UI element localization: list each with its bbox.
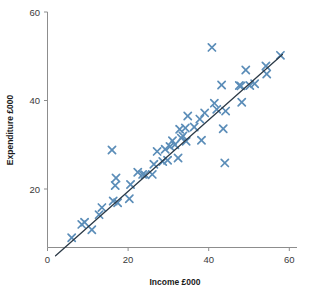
data-point-marker <box>213 106 220 113</box>
data-point-marker <box>68 234 75 241</box>
data-point-markers <box>68 44 284 241</box>
data-point-marker <box>88 226 95 233</box>
data-point-marker <box>198 137 205 144</box>
scatter-chart: 60 40 20 0 20 40 60 Income £000 Expendit… <box>0 0 313 294</box>
x-tick-labels: 0 20 40 60 <box>45 254 295 265</box>
regression-line-path <box>56 54 283 255</box>
y-tick-label-60: 60 <box>29 7 40 18</box>
data-point-marker <box>154 148 161 155</box>
y-tick-label-40: 40 <box>29 95 40 106</box>
data-point-marker <box>211 100 218 107</box>
data-point-marker <box>201 109 208 116</box>
data-point-marker <box>208 44 215 51</box>
y-tick-label-20: 20 <box>29 184 40 195</box>
chart-canvas: 60 40 20 0 20 40 60 Income £000 Expendit… <box>0 0 313 294</box>
data-point-marker <box>238 99 245 106</box>
plot-axes <box>48 12 298 248</box>
data-point-marker <box>108 146 115 153</box>
data-point-marker <box>222 108 229 115</box>
data-point-marker <box>220 125 227 132</box>
data-point-marker <box>221 159 228 166</box>
y-axis-ticks <box>44 12 48 189</box>
y-tick-labels: 60 40 20 <box>29 7 40 195</box>
data-point-marker <box>98 204 105 211</box>
y-axis-title: Expenditure £000 <box>5 95 15 166</box>
x-tick-label-60: 60 <box>284 254 295 265</box>
data-point-marker <box>218 81 225 88</box>
x-tick-label-20: 20 <box>123 254 134 265</box>
x-axis-ticks <box>48 248 290 252</box>
data-point-marker <box>174 154 181 161</box>
x-axis-title: Income £000 <box>149 277 200 287</box>
data-point-marker <box>126 195 133 202</box>
data-point-marker <box>196 115 203 122</box>
data-point-marker <box>184 112 191 119</box>
data-point-marker <box>242 66 249 73</box>
x-tick-label-0: 0 <box>45 254 50 265</box>
data-point-marker <box>191 123 198 130</box>
data-point-marker <box>112 174 119 181</box>
data-point-marker <box>182 124 189 131</box>
x-tick-label-40: 40 <box>203 254 214 265</box>
data-point-marker <box>81 219 88 226</box>
data-point-marker <box>112 182 119 189</box>
